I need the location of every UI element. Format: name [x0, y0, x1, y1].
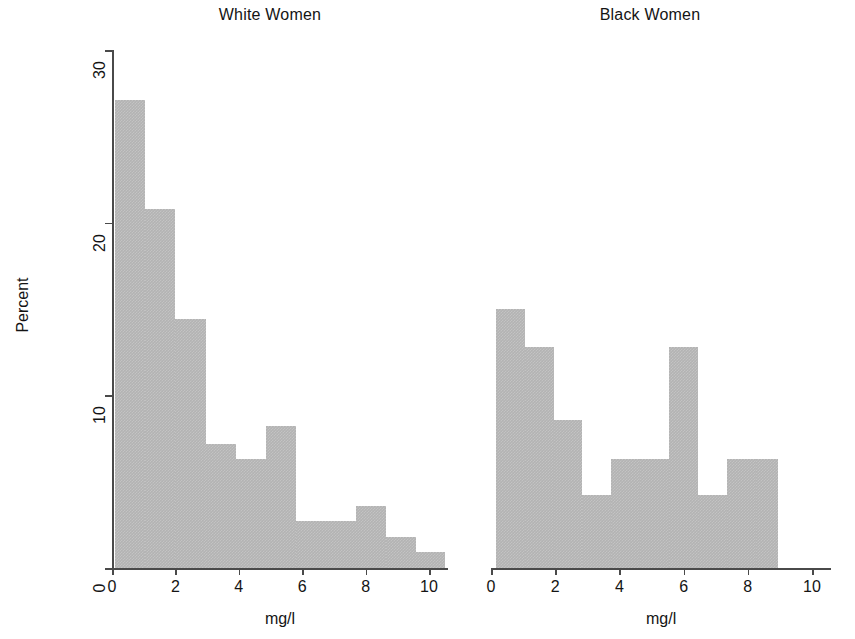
histogram-bar	[554, 420, 583, 568]
plot-area-white-women: 0246810mg/l	[112, 50, 461, 568]
x-axis-tick-label: 10	[797, 578, 827, 596]
x-axis-tick-label: 0	[476, 578, 506, 596]
histogram-bar	[206, 444, 236, 568]
x-axis-tick-label: 4	[224, 578, 254, 596]
bar-group	[112, 50, 461, 568]
x-axis-tick-label: 0	[97, 578, 127, 596]
histogram-bar	[698, 495, 727, 568]
histogram-bar	[611, 459, 640, 568]
panel-title-white-women: White Women	[150, 6, 390, 24]
x-axis-tick	[491, 568, 493, 575]
x-axis-tick	[112, 568, 114, 575]
histogram-bar	[115, 100, 145, 568]
histogram-bar	[386, 537, 416, 568]
histogram-bar	[582, 495, 611, 568]
x-axis-tick-label: 6	[669, 578, 699, 596]
histogram-bar	[356, 506, 386, 568]
histogram-bar	[236, 459, 266, 568]
x-axis-tick-label: 2	[160, 578, 190, 596]
plot-area-black-women: 0246810mg/l	[491, 50, 844, 568]
histogram-bar	[175, 319, 205, 568]
bar-group	[491, 50, 844, 568]
histogram-bar	[416, 552, 445, 568]
x-axis-tick-label: 4	[604, 578, 634, 596]
x-axis-tick	[748, 568, 750, 575]
x-axis-tick	[429, 568, 431, 575]
y-axis-tick-label: 20	[91, 223, 109, 263]
x-axis-tick-label: 8	[351, 578, 381, 596]
x-axis-tick	[555, 568, 557, 575]
histogram-figure: White Women Black Women Percent 0102030 …	[0, 0, 855, 639]
x-axis-tick	[302, 568, 304, 575]
x-axis-tick	[812, 568, 814, 575]
x-axis-line	[491, 568, 831, 570]
histogram-bar	[756, 459, 778, 568]
histogram-bar	[496, 309, 525, 568]
y-axis-tick-label: 10	[91, 395, 109, 435]
x-axis-tick	[684, 568, 686, 575]
x-axis-tick	[366, 568, 368, 575]
y-axis-label: Percent	[14, 255, 32, 355]
x-axis-label: mg/l	[180, 610, 380, 628]
x-axis-tick-label: 10	[414, 578, 444, 596]
x-axis-tick-label: 6	[287, 578, 317, 596]
histogram-bar	[640, 459, 669, 568]
x-axis-tick	[239, 568, 241, 575]
panel-title-black-women: Black Women	[530, 6, 770, 24]
histogram-bar	[727, 459, 756, 568]
histogram-bar	[266, 426, 296, 568]
x-axis-line	[112, 568, 448, 570]
x-axis-label: mg/l	[561, 610, 761, 628]
histogram-bar	[145, 209, 175, 568]
histogram-bar	[669, 347, 698, 568]
histogram-bar	[525, 347, 554, 568]
x-axis-tick-label: 8	[733, 578, 763, 596]
y-axis-tick-label: 30	[91, 50, 109, 90]
x-axis-tick-label: 2	[540, 578, 570, 596]
x-axis-tick	[175, 568, 177, 575]
histogram-bar	[296, 521, 326, 568]
x-axis-tick	[619, 568, 621, 575]
histogram-bar	[326, 521, 356, 568]
